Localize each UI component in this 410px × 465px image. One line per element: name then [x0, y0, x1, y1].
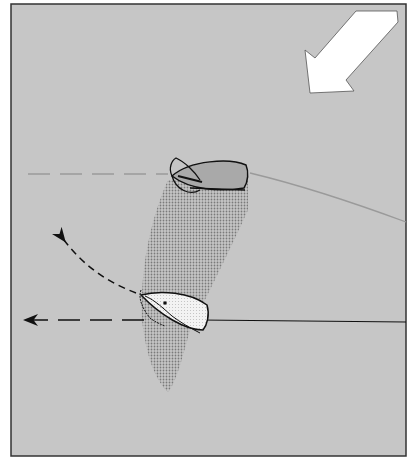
sailing-diagram	[0, 0, 410, 465]
